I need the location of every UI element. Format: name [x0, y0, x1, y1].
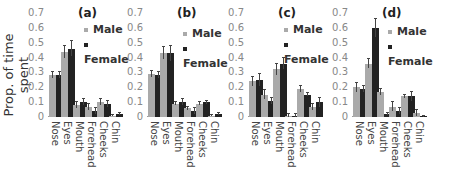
error-bar	[423, 116, 424, 117]
y-tick-label: 0.7	[127, 8, 143, 18]
x-tick-label: Eyes	[62, 121, 73, 145]
y-tick-label: 0.4	[28, 53, 44, 63]
error-bar	[199, 102, 200, 105]
y-tick-label: 0.6	[332, 23, 348, 33]
y-tick-label: 0.2	[127, 82, 143, 92]
y-tick-label: 0.3	[127, 67, 143, 77]
error-cap	[374, 18, 377, 19]
y-tick-label: 0.5	[332, 38, 348, 48]
y-axis-ticks: 00.10.20.30.40.50.60.7	[326, 0, 348, 175]
bar-male-cheeks	[401, 96, 408, 117]
bar-male-eyes	[61, 52, 68, 117]
error-bar	[151, 71, 152, 77]
error-cap	[198, 101, 201, 102]
error-bar	[307, 93, 308, 96]
panel-title: (c)	[278, 6, 296, 20]
bar-male-nose	[49, 75, 56, 117]
x-tick-label: Chin	[110, 121, 121, 143]
error-bar	[312, 104, 313, 110]
error-cap	[403, 94, 406, 95]
error-cap	[299, 85, 302, 86]
y-tick-label: 0.5	[127, 38, 143, 48]
error-bar	[363, 86, 364, 92]
error-bar	[170, 46, 171, 61]
y-tick-label: 0.7	[332, 8, 348, 18]
y-tick-label: 0.1	[127, 97, 143, 107]
panel-c: 00.10.20.30.40.50.60.7NoseEyesMouthForeh…	[222, 0, 326, 175]
error-cap	[106, 100, 109, 101]
error-bar	[300, 86, 301, 92]
y-tick-label: 0.6	[28, 23, 44, 33]
error-cap	[355, 82, 358, 83]
bar-male-mouth	[172, 104, 179, 117]
bar-male-eyes	[365, 64, 372, 117]
error-bar	[206, 101, 207, 104]
error-cap	[169, 45, 172, 46]
error-bar	[95, 108, 96, 114]
error-cap	[210, 114, 213, 115]
error-cap	[87, 103, 90, 104]
error-bar	[88, 104, 89, 110]
y-tick-label: 0.2	[228, 82, 244, 92]
error-bar	[271, 98, 272, 104]
error-bar	[416, 110, 417, 116]
legend-swatch	[388, 30, 392, 34]
legend-swatch	[388, 45, 392, 49]
x-tick-label: Mouth	[378, 121, 389, 152]
x-tick-label: Chin	[414, 121, 425, 143]
error-bar	[194, 108, 195, 114]
legend-label: Female	[183, 57, 228, 70]
legend-label: Male	[192, 27, 222, 40]
error-bar	[218, 113, 219, 114]
y-tick-label: 0.7	[28, 8, 44, 18]
legend-swatch	[284, 43, 288, 47]
panel-a: 00.10.20.30.40.50.60.7NoseEyesMouthForeh…	[22, 0, 122, 175]
error-cap	[217, 112, 220, 113]
legend: MaleFemale	[284, 22, 329, 67]
legend-label: Male	[397, 25, 427, 38]
error-cap	[162, 46, 165, 47]
legend-item: Male	[388, 24, 433, 39]
error-bar	[259, 74, 260, 86]
error-cap	[287, 113, 290, 114]
y-tick-label: 0.1	[332, 97, 348, 107]
error-bar	[288, 114, 289, 117]
x-tick-label: Eyes	[262, 121, 273, 145]
bar-male-cheeks	[297, 89, 304, 117]
panel-d: 00.10.20.30.40.50.60.7NoseEyesMouthForeh…	[326, 0, 430, 175]
y-tick-label: 0.2	[28, 82, 44, 92]
x-tick-label: Chin	[310, 121, 321, 143]
x-tick-label: Forehead	[286, 121, 297, 168]
error-bar	[83, 99, 84, 105]
error-cap	[367, 58, 370, 59]
error-bar	[252, 77, 253, 86]
error-bar	[182, 99, 183, 105]
error-cap	[258, 73, 261, 74]
bar-male-nose	[148, 74, 155, 117]
error-cap	[70, 40, 73, 41]
x-tick-label: Nose	[354, 121, 365, 146]
legend-item: Male	[284, 22, 329, 37]
error-cap	[263, 89, 266, 90]
panel-b: 00.10.20.30.40.50.60.7NoseEyesMouthForeh…	[121, 0, 221, 175]
error-bar	[112, 115, 113, 116]
y-tick-label: 0	[238, 112, 244, 122]
x-tick-label: Nose	[149, 121, 160, 146]
x-tick-label: Forehead	[86, 121, 97, 168]
error-cap	[111, 114, 114, 115]
error-bar	[211, 115, 212, 116]
x-tick-label: Cheeks	[402, 121, 413, 158]
error-bar	[375, 19, 376, 37]
error-bar	[404, 95, 405, 98]
error-bar	[380, 89, 381, 95]
error-bar	[368, 59, 369, 68]
error-bar	[295, 114, 296, 117]
x-tick-label: Forehead	[390, 121, 401, 168]
error-cap	[174, 101, 177, 102]
error-bar	[52, 72, 53, 78]
y-tick-label: 0.3	[332, 67, 348, 77]
error-cap	[275, 63, 278, 64]
legend-item: Female	[388, 39, 433, 69]
y-tick-label: 0.4	[127, 53, 143, 63]
error-cap	[391, 101, 394, 102]
